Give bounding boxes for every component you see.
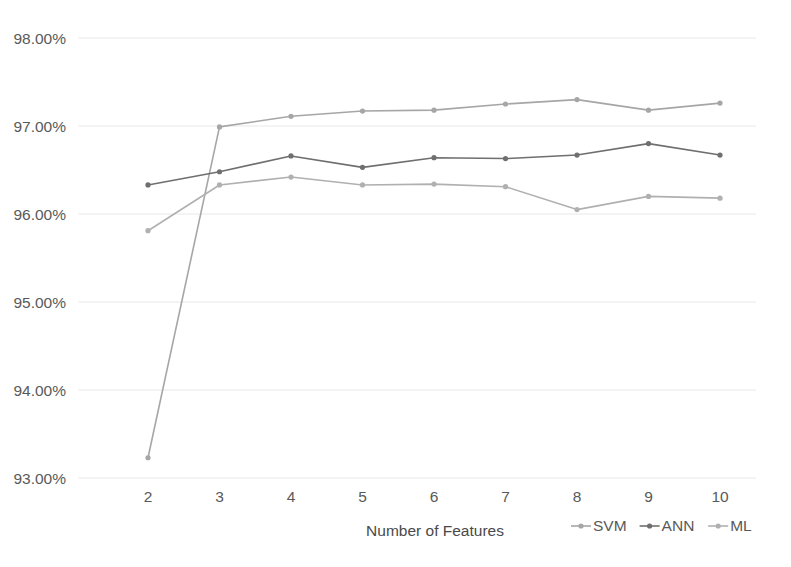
x-tick-label: 2 — [144, 488, 153, 505]
chart-canvas: 98.00%97.00%96.00%95.00%94.00%93.00% 234… — [0, 0, 791, 567]
x-axis-title: Number of Features — [366, 522, 504, 539]
data-point-marker — [574, 152, 579, 157]
legend-item-ann[interactable]: ANN — [640, 517, 695, 534]
data-point-marker — [145, 228, 150, 233]
legend-item-svm[interactable]: SVM — [571, 517, 627, 534]
gridlines — [78, 38, 756, 478]
line-chart: 98.00%97.00%96.00%95.00%94.00%93.00% 234… — [0, 0, 791, 567]
data-point-marker — [217, 124, 222, 129]
x-tick-label: 3 — [215, 488, 224, 505]
data-point-marker — [288, 114, 293, 119]
data-point-marker — [360, 108, 365, 113]
data-point-marker — [288, 153, 293, 158]
data-point-marker — [503, 156, 508, 161]
x-tick-label: 9 — [644, 488, 653, 505]
x-tick-label: 5 — [358, 488, 367, 505]
chart-legend: SVMANNML — [571, 517, 752, 534]
data-point-marker — [431, 155, 436, 160]
y-tick-label: 95.00% — [13, 294, 66, 311]
series-line-ann — [148, 144, 720, 185]
y-tick-label: 96.00% — [13, 206, 66, 223]
data-point-marker — [431, 108, 436, 113]
x-tick-label: 8 — [573, 488, 582, 505]
y-tick-label: 98.00% — [13, 30, 66, 47]
x-tick-label: 6 — [430, 488, 439, 505]
data-point-marker — [431, 181, 436, 186]
data-point-marker — [646, 108, 651, 113]
y-tick-label: 94.00% — [13, 382, 66, 399]
data-point-marker — [217, 169, 222, 174]
data-point-marker — [717, 101, 722, 106]
data-point-marker — [360, 182, 365, 187]
data-point-marker — [717, 152, 722, 157]
series-line-svm — [148, 100, 720, 458]
data-point-marker — [145, 455, 150, 460]
x-tick-label: 7 — [501, 488, 510, 505]
x-tick-label: 10 — [711, 488, 729, 505]
legend-label: ANN — [662, 517, 695, 534]
data-point-marker — [574, 97, 579, 102]
data-point-marker — [360, 165, 365, 170]
y-tick-label: 93.00% — [13, 470, 66, 487]
legend-swatch-marker — [647, 523, 652, 528]
x-tick-label: 4 — [287, 488, 296, 505]
legend-swatch-marker — [716, 523, 721, 528]
legend-label: SVM — [593, 517, 627, 534]
x-axis-tick-labels: 2345678910 — [144, 488, 729, 505]
data-point-marker — [217, 182, 222, 187]
data-point-marker — [503, 184, 508, 189]
series-svm — [145, 97, 722, 460]
y-axis-tick-labels: 98.00%97.00%96.00%95.00%94.00%93.00% — [13, 30, 66, 487]
legend-item-ml[interactable]: ML — [708, 517, 752, 534]
series-ml — [145, 174, 722, 233]
data-point-marker — [503, 101, 508, 106]
series-ann — [145, 141, 722, 188]
legend-label: ML — [730, 517, 752, 534]
data-series-group — [145, 97, 722, 460]
data-point-marker — [145, 182, 150, 187]
y-tick-label: 97.00% — [13, 118, 66, 135]
data-point-marker — [717, 196, 722, 201]
data-point-marker — [288, 174, 293, 179]
data-point-marker — [646, 141, 651, 146]
legend-swatch-marker — [578, 523, 583, 528]
data-point-marker — [646, 194, 651, 199]
data-point-marker — [574, 207, 579, 212]
